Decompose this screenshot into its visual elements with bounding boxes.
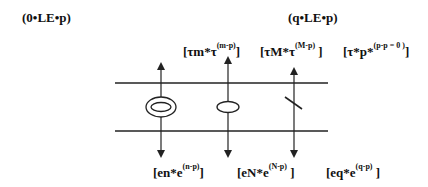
double-ellipse-icon [146,97,176,117]
header-right: (q•LE•p) [288,11,338,24]
diagram-graphics [0,0,428,187]
bottom-label-q-close: ] [373,165,381,180]
bottom-label-N-close: ] [287,165,295,180]
bottom-label-N-base: [eN*e [237,165,269,180]
bottom-label-q: [eq*e(q-p) ] [326,166,380,179]
top-label-m-base: [τm*τ [183,44,217,59]
bottom-label-N-exp: (N-p) [269,162,287,171]
top-label-M-exp: (M-p) [295,41,315,50]
top-label-p-base: [τ*p* [343,44,374,59]
bottom-label-n-exp: (n-p) [183,162,200,171]
bottom-label-n-close: ] [200,165,204,180]
top-label-p: [τ*p*(p-p = 0 )] [343,45,409,58]
bottom-label-N: [eN*e(N-p) ] [237,166,295,179]
bottom-label-q-base: [eq*e [326,165,356,180]
top-label-m: [τm*τ(m-p)] [183,45,240,58]
top-label-M-close: ] [315,44,323,59]
top-label-m-close: ] [236,44,240,59]
single-ellipse-icon [217,102,239,113]
top-label-M: [τM*τ(M-p) ] [260,45,323,58]
header-left: (0•LE•p) [22,11,71,24]
top-label-p-exp: (p-p = 0 ) [374,41,405,50]
top-label-p-close: ] [405,44,409,59]
bottom-label-n: [en*e(n-p)] [153,166,204,179]
bottom-label-q-exp: (q-p) [356,162,373,171]
bottom-label-n-base: [en*e [153,165,183,180]
layer-diagram: (0•LE•p) (q•LE•p) [τm*τ(m-p)] [τM*τ(M-p)… [0,0,428,187]
top-label-M-base: [τM*τ [260,44,295,59]
top-label-m-exp: (m-p) [217,41,236,50]
